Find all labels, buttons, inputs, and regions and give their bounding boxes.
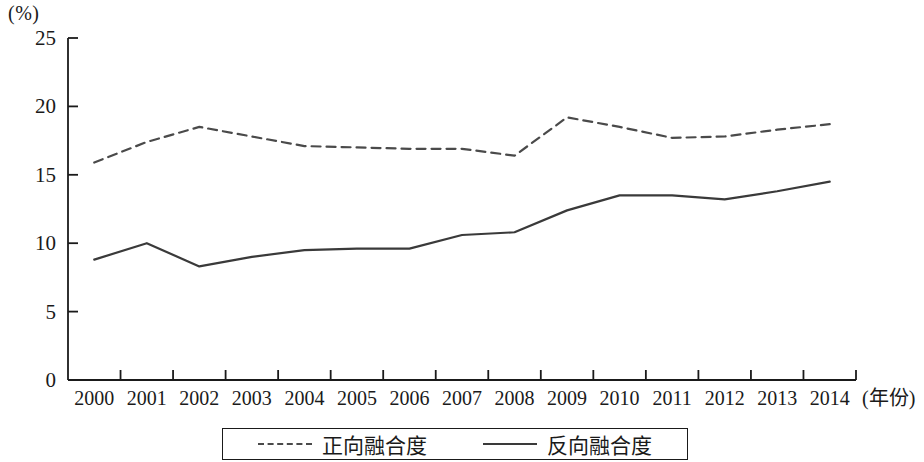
y-axis-ticks xyxy=(68,38,78,312)
x-axis-tick-label: 2010 xyxy=(600,387,640,409)
x-axis-tick-label: 2005 xyxy=(337,387,377,409)
series-lines xyxy=(94,117,829,266)
y-axis-tick-label: 15 xyxy=(35,163,56,187)
y-axis-tick-label: 5 xyxy=(46,300,57,324)
x-axis-name-label: (年份) xyxy=(862,387,915,410)
legend-swatch-dashed-icon xyxy=(258,443,312,445)
plot-area: 0510152025 20002001200220032004200520062… xyxy=(0,0,924,424)
line-chart: (%) 0510152025 2000200120022003200420052… xyxy=(0,0,924,462)
x-axis-tick-label: 2014 xyxy=(810,387,850,409)
y-axis-tick-label: 25 xyxy=(35,26,56,50)
y-axis-tick-label: 20 xyxy=(35,94,56,118)
y-axis-tick-label: 10 xyxy=(35,231,56,255)
x-axis-tick-labels: 2000200120022003200420052006200720082009… xyxy=(74,387,849,409)
legend-entry-forward: 正向融合度 xyxy=(258,429,427,459)
x-axis-tick-label: 2000 xyxy=(74,387,114,409)
x-axis-tick-label: 2001 xyxy=(127,387,167,409)
y-axis-tick-label: 0 xyxy=(46,368,57,392)
series-line-reverse xyxy=(94,182,829,267)
legend-entry-reverse: 反向融合度 xyxy=(483,429,652,459)
x-axis-tick-label: 2004 xyxy=(284,387,324,409)
x-axis-tick-label: 2007 xyxy=(442,387,482,409)
series-line-forward xyxy=(94,117,829,162)
legend-label-forward: 正向融合度 xyxy=(322,429,427,459)
x-axis-tick-label: 2006 xyxy=(389,387,429,409)
x-axis-tick-label: 2011 xyxy=(653,387,692,409)
x-axis-tick-label: 2013 xyxy=(757,387,797,409)
x-axis-tick-label: 2009 xyxy=(547,387,587,409)
chart-legend: 正向融合度 反向融合度 xyxy=(222,428,688,460)
x-axis-tick-label: 2002 xyxy=(179,387,219,409)
legend-swatch-solid-icon xyxy=(483,443,537,445)
x-axis-tick-label: 2003 xyxy=(232,387,272,409)
legend-label-reverse: 反向融合度 xyxy=(547,429,652,459)
x-axis-tick-label: 2012 xyxy=(705,387,745,409)
x-axis-tick-label: 2008 xyxy=(495,387,535,409)
y-axis-tick-labels: 0510152025 xyxy=(35,26,56,392)
x-axis-ticks xyxy=(121,370,804,380)
